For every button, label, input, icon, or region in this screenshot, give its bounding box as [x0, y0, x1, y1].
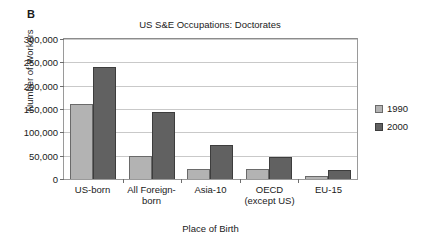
- legend: 19902000: [375, 103, 408, 139]
- legend-label: 2000: [387, 121, 408, 132]
- bar-group: [123, 39, 182, 179]
- x-category-label-line: All Foreign-: [122, 184, 181, 195]
- bar-1990-eu-15: [305, 176, 328, 179]
- y-tick-label: 100,000: [24, 127, 58, 138]
- y-tick-label: 150,000: [24, 104, 58, 115]
- bar-group: [64, 39, 123, 179]
- x-category-label: US-born: [63, 184, 122, 206]
- x-tick-mark: [298, 179, 299, 183]
- y-tick-label: 300,000: [24, 34, 58, 45]
- y-tick-label: 0: [53, 174, 58, 185]
- x-category-label: All Foreign-born: [122, 184, 181, 206]
- y-tick-label: 250,000: [24, 57, 58, 68]
- figure-panel-b: B US S&E Occupations: Doctorates Number …: [0, 0, 441, 252]
- chart-title: US S&E Occupations: Doctorates: [62, 19, 358, 30]
- bar-2000-all-foreign-born: [152, 112, 175, 179]
- bar-group: [181, 39, 240, 179]
- bar-2000-us-born: [93, 67, 116, 179]
- x-category-label-line: (except US): [240, 195, 299, 206]
- bar-1990-oecd-except-us-: [246, 169, 269, 179]
- x-category-label-line: EU-15: [299, 184, 358, 195]
- x-category-label-line: born: [122, 195, 181, 206]
- bar-groups: [64, 39, 357, 179]
- bar-2000-eu-15: [328, 170, 351, 179]
- x-category-label: OECD(except US): [240, 184, 299, 206]
- bar-2000-asia-10: [210, 145, 233, 179]
- x-category-label-line: Asia-10: [181, 184, 240, 195]
- legend-label: 1990: [387, 103, 408, 114]
- x-tick-mark: [123, 179, 124, 183]
- x-axis-title: Place of Birth: [63, 223, 358, 234]
- x-category-label: EU-15: [299, 184, 358, 206]
- x-axis-category-labels: US-bornAll Foreign-bornAsia-10OECD(excep…: [63, 184, 358, 206]
- x-category-label: Asia-10: [181, 184, 240, 206]
- x-category-label-line: OECD: [240, 184, 299, 195]
- x-tick-mark: [181, 179, 182, 183]
- x-category-label-line: US-born: [63, 184, 122, 195]
- bar-2000-oecd-except-us-: [269, 157, 292, 179]
- legend-swatch-2000: [375, 123, 383, 131]
- legend-swatch-1990: [375, 105, 383, 113]
- y-tick-mark: [60, 179, 64, 180]
- legend-item-1990: 1990: [375, 103, 408, 114]
- bar-group: [298, 39, 357, 179]
- bar-1990-us-born: [70, 104, 93, 179]
- plot-area: 050,000100,000150,000200,000250,000300,0…: [63, 38, 358, 180]
- bar-1990-asia-10: [187, 169, 210, 179]
- legend-item-2000: 2000: [375, 121, 408, 132]
- y-tick-label: 200,000: [24, 80, 58, 91]
- bar-1990-all-foreign-born: [129, 156, 152, 179]
- x-tick-mark: [240, 179, 241, 183]
- bar-group: [240, 39, 299, 179]
- y-tick-label: 50,000: [29, 150, 58, 161]
